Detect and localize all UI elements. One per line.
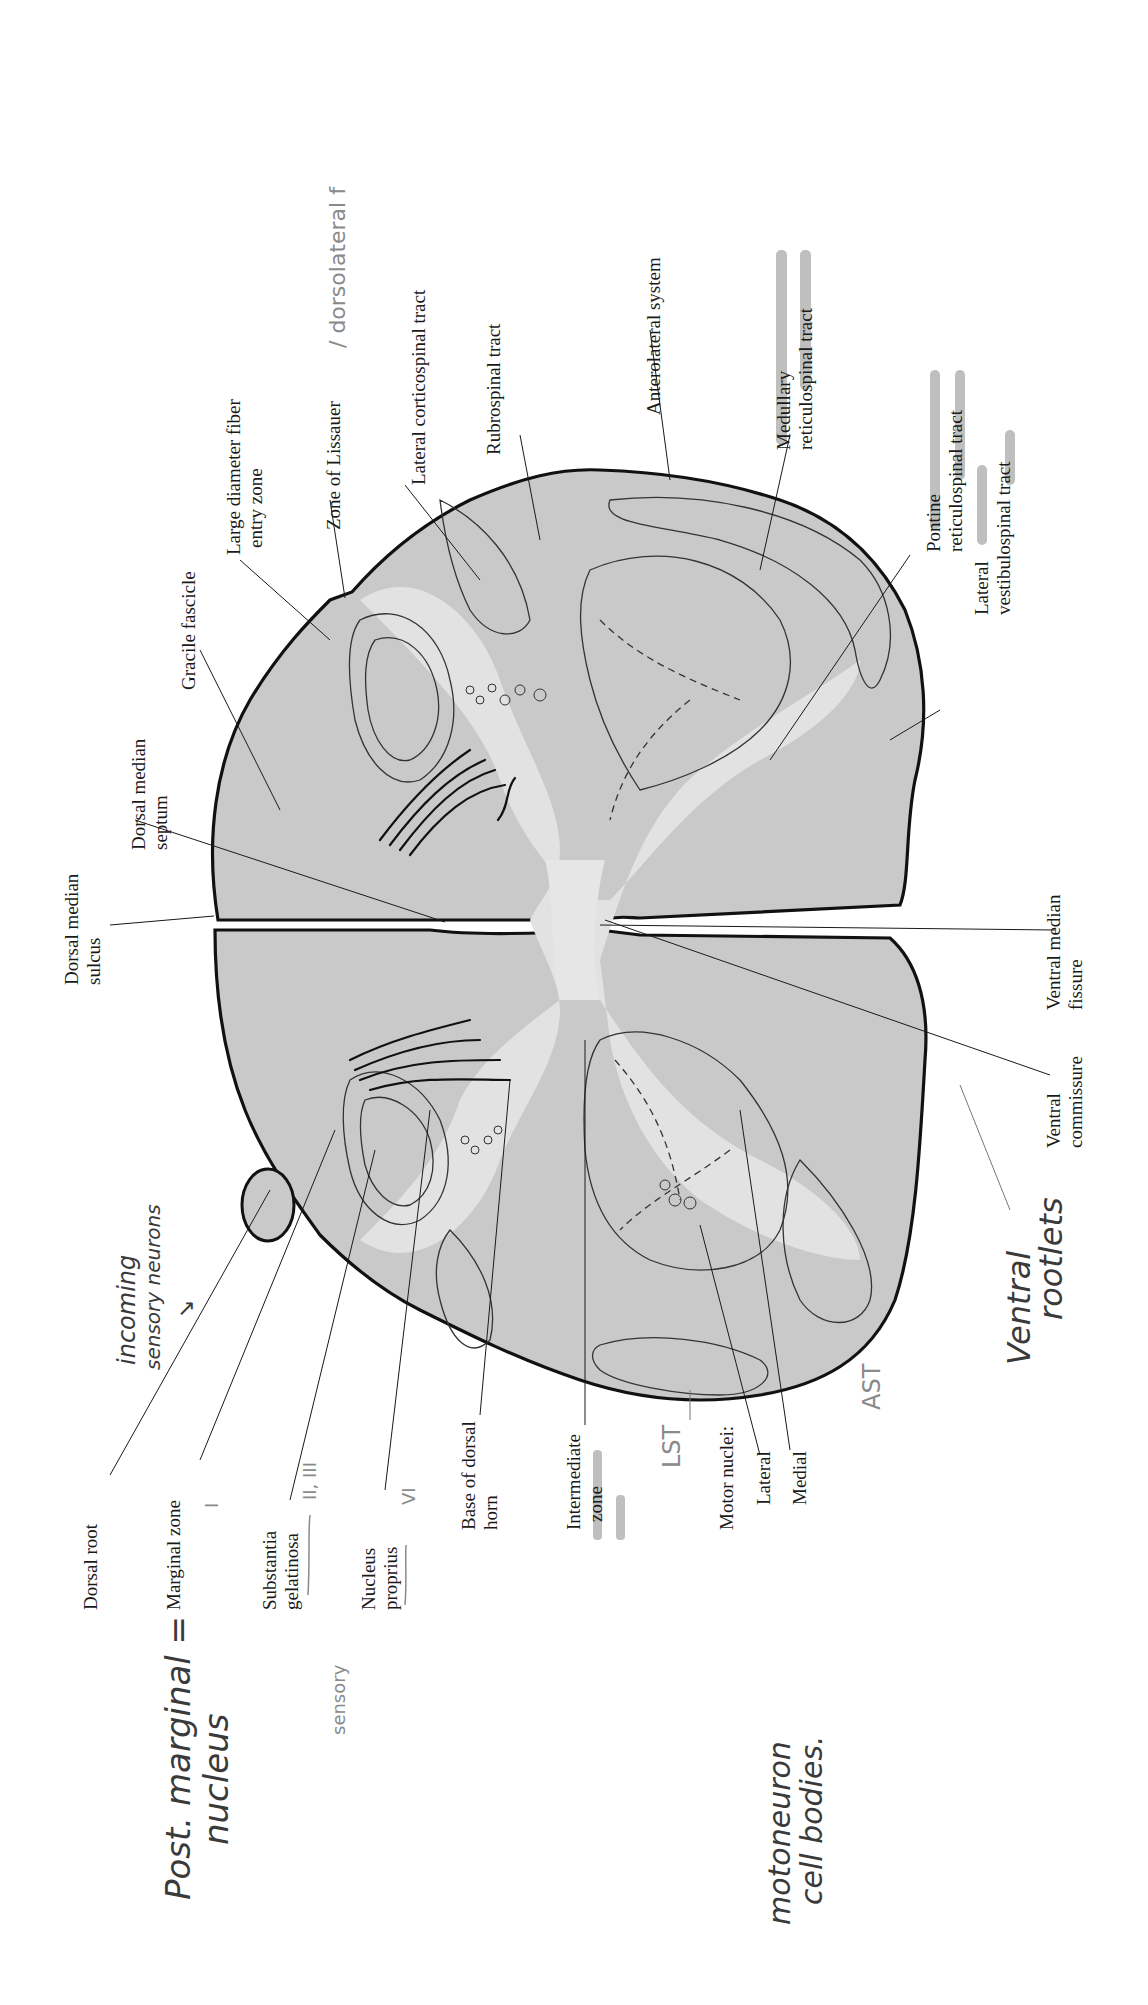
label-lateral-vestibulospinal-1: Lateral (971, 561, 992, 615)
label-ventral-median-fissure-1: Ventral median (1043, 894, 1064, 1010)
label-medullary-reticulospinal-2: reticulospinal tract (795, 307, 816, 450)
label-marginal-zone: Marginal zone (163, 1500, 184, 1610)
label-lateral-corticospinal: Lateral corticospinal tract (408, 289, 429, 485)
note-post-marginal-1: Post. marginal = (158, 1616, 198, 1900)
label-ventral-median-fissure-2: fissure (1065, 959, 1086, 1010)
note-incoming-2: sensory neurons (141, 1204, 165, 1370)
label-ventral-commissure-1: Ventral (1043, 1093, 1064, 1148)
label-substantia-gelatinosa-1: Substantia (259, 1530, 280, 1610)
label-nucleus-proprius-1: Nucleus (358, 1548, 379, 1610)
label-base-dorsal-horn-1: Base of dorsal (458, 1421, 479, 1530)
label-large-diameter-2: entry zone (245, 468, 266, 548)
arrow-icon: → (171, 1293, 202, 1324)
note-motoneuron-2: cell bodies. (794, 1735, 829, 1905)
label-medullary-reticulospinal-1: Medullary (773, 370, 794, 450)
note-sensory: sensory (328, 1664, 349, 1735)
label-pontine-reticulospinal-2: reticulospinal tract (945, 409, 966, 552)
note-ast: AST (858, 1363, 886, 1410)
note-lamina-I: I (201, 1503, 222, 1508)
note-ventral-rootlets-2: rootlets (1032, 1197, 1070, 1320)
dorsal-root-bulb (242, 1169, 294, 1241)
note-dorsolateral: / dorsolateral f (325, 186, 350, 348)
label-motor-nuclei: Motor nuclei: (716, 1426, 737, 1530)
label-dorsal-median-sulcus-1: Dorsal median (61, 873, 82, 985)
label-zone-of-lissauer: Zone of Lissauer (323, 401, 344, 530)
label-base-dorsal-horn-2: horn (480, 1495, 501, 1530)
cord-lower-half (215, 930, 926, 1400)
label-substantia-gelatinosa-2: gelatinosa (281, 1532, 302, 1610)
label-pontine-reticulospinal-1: Pontine (923, 494, 944, 552)
label-ventral-commissure-2: commissure (1065, 1056, 1086, 1148)
spinal-cord-diagram: Dorsal median sulcus Dorsal median septu… (0, 0, 1148, 2005)
label-anterolateral-system: Anterolateral system (643, 257, 664, 415)
label-lateral-vestibulospinal-2: vestibulospinal tract (993, 461, 1014, 615)
cord-section (213, 470, 926, 1400)
label-gracile-fascicle: Gracile fascicle (178, 571, 199, 690)
label-intermediate-zone-2: zone (585, 1486, 606, 1522)
note-lst: LST (658, 1424, 686, 1468)
label-intermediate-zone-1: Intermediate (563, 1434, 584, 1530)
note-incoming-1: incoming (113, 1255, 141, 1365)
note-lamina-VI: VI (398, 1487, 419, 1505)
label-dorsal-median-septum-1: Dorsal median (128, 738, 149, 850)
label-rubrospinal: Rubrospinal tract (483, 323, 504, 455)
note-lamina-II-III: II, III (299, 1462, 320, 1500)
label-dorsal-median-sulcus-2: sulcus (83, 938, 104, 986)
label-dorsal-median-septum-2: septum (150, 795, 171, 850)
label-dorsal-root: Dorsal root (80, 1523, 101, 1610)
note-post-marginal-2: nucleus (196, 1714, 236, 1845)
label-large-diameter-1: Large diameter fiber (223, 399, 244, 555)
label-nucleus-proprius-2: proprius (380, 1547, 401, 1610)
note-motoneuron-1: motoneuron (762, 1741, 797, 1925)
diagram-canvas: Dorsal median sulcus Dorsal median septu… (0, 0, 1148, 2005)
label-motor-lateral: Lateral (753, 1451, 774, 1505)
label-motor-medial: Medial (789, 1451, 810, 1505)
